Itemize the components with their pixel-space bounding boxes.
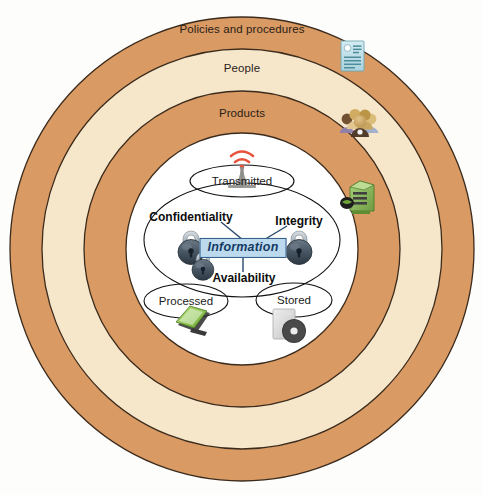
information-box[interactable]: Information	[200, 238, 287, 258]
diagram-canvas: Policies and procedures People Products …	[0, 0, 483, 495]
document-icon	[341, 41, 364, 71]
